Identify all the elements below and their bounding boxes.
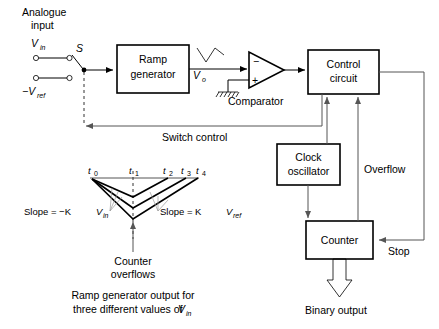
vin-subscript: in [40, 44, 46, 51]
stop-label: Stop [388, 245, 410, 257]
graph-t4-subscript: 4 [202, 170, 206, 177]
graph-t2-subscript: 2 [169, 170, 173, 177]
overflow-label: Overflow [364, 163, 406, 175]
graph-caption-line2: three different values of [73, 303, 183, 315]
clock-oscillator-label-line1: Clock [295, 151, 322, 163]
clock-oscillator-block[interactable]: Clock oscillator [277, 97, 340, 218]
clock-oscillator-label-line2: oscillator [288, 165, 330, 177]
ramp-generator-block[interactable]: Ramp generator [117, 45, 189, 93]
binary-output-arrow-icon [327, 259, 352, 297]
vo-output-group: V o [189, 48, 247, 83]
control-circuit-block[interactable]: Control circuit [308, 50, 379, 94]
control-circuit-label-line1: Control [327, 58, 361, 70]
slope-right-label: Slope = K [160, 206, 202, 217]
vin-input-terminal [33, 55, 38, 60]
switch-control-label: Switch control [162, 131, 227, 143]
switch-label: S [76, 42, 83, 54]
switch-control-wire [86, 94, 322, 126]
overflow-path: Overflow [358, 97, 406, 221]
counter-overflows-label-line2: overflows [111, 268, 155, 280]
dual-slope-adc-diagram: Analogue input V in −V ref S Ramp [0, 0, 439, 329]
graph-caption-line1: Ramp generator output for [71, 289, 195, 301]
graph-t2-label: t [163, 165, 166, 176]
graph-t1-subscript: 1 [135, 170, 139, 177]
vref-input-terminal [33, 75, 38, 80]
binary-output-label: Binary output [305, 304, 367, 316]
switch-blade[interactable] [72, 55, 83, 69]
vin-label: V [31, 37, 39, 49]
graph-caption-vin-subscript: in [186, 310, 192, 317]
counter-block[interactable]: Counter [306, 221, 373, 259]
counter-label: Counter [321, 234, 359, 246]
ramp-generator-label-line1: Ramp [139, 53, 167, 65]
vref-subscript: ref [37, 92, 46, 99]
slope-left-subscript: in [103, 212, 109, 219]
control-circuit-label-line2: circuit [330, 72, 358, 84]
vref-switch-contact [67, 75, 72, 80]
analogue-input-label-line1: Analogue [22, 6, 67, 18]
comparator-plus-label: + [252, 74, 258, 86]
graph-t4-label: t [196, 165, 199, 176]
analogue-input-label-line2: input [31, 19, 54, 31]
graph-t3-label: t [181, 165, 184, 176]
graph-t0-label: t [88, 165, 91, 176]
graph-t1-label: t [129, 165, 132, 176]
ramp-output-graph: t 0 t 1 t 2 t 3 t 4 Slope = −K V in Slop… [24, 165, 242, 317]
vo-subscript: o [202, 76, 206, 83]
vref-label: −V [22, 85, 36, 97]
counter-overflows-label-line1: Counter [114, 255, 152, 267]
graph-t3-subscript: 3 [187, 170, 191, 177]
slope-left-label: Slope = −K [24, 206, 72, 217]
slope-right-subscript: ref [233, 212, 242, 219]
analogue-input-group: Analogue input V in −V ref S [22, 6, 113, 99]
binary-output-group: Binary output [305, 259, 367, 316]
ramp-generator-label-line2: generator [131, 68, 176, 80]
ramp-waveform-icon [197, 48, 224, 62]
diagram-canvas: Analogue input V in −V ref S Ramp [0, 0, 439, 329]
comparator-block[interactable]: − + Comparator [216, 52, 305, 107]
graph-caption-vin-symbol: V [178, 303, 186, 315]
comparator-ground-wire [228, 80, 249, 92]
stop-wire [379, 72, 424, 240]
vin-switch-contact [67, 55, 72, 60]
switch-pivot [82, 68, 87, 73]
comparator-minus-label: − [253, 55, 259, 67]
graph-t0-subscript: 0 [94, 170, 98, 177]
vo-label: V [193, 69, 201, 81]
